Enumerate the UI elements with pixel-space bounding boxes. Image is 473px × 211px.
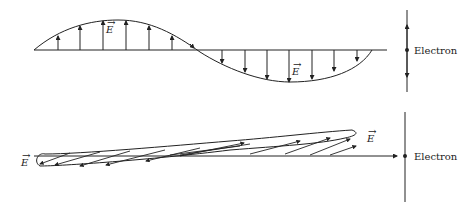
top-electron-dot [405,48,409,52]
top-down-field-arrows [222,50,357,82]
top-sine-wave [34,20,372,82]
top-panel: E → E → Electron [34,10,458,92]
bottom-vector-mark-right: → [368,126,377,137]
bottom-electron-label: Electron [414,151,458,162]
bottom-field-envelope [37,130,356,166]
bottom-left-field-arrows [40,148,200,166]
top-vector-mark-negative: → [293,59,302,70]
top-vector-mark-positive: → [107,17,116,28]
bottom-vector-mark-left: → [22,150,31,161]
diagram-canvas: E → E → Electron [0,0,473,211]
top-electron-label: Electron [414,45,458,56]
bottom-electron-dot [403,154,407,158]
bottom-panel: E → E → Electron [20,112,458,202]
